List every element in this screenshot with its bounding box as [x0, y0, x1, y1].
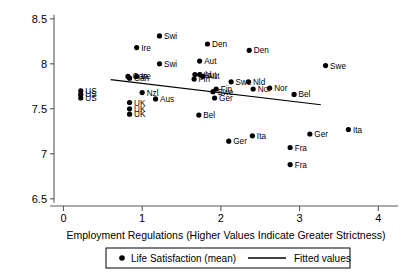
data-point-marker — [127, 76, 132, 81]
x-tick-label: 3 — [297, 212, 303, 224]
legend-label-life-satisfaction: Life Satisfaction (mean) — [131, 253, 236, 264]
data-point-label: UK — [134, 110, 146, 119]
data-point-marker — [226, 139, 231, 144]
data-point-label: Swi — [164, 32, 177, 41]
y-tick-label: 7.5 — [32, 103, 47, 115]
data-point-label: Den — [212, 40, 227, 49]
y-tick-label: 6.5 — [32, 193, 47, 205]
data-point-label: Swe — [330, 62, 346, 71]
data-point-marker — [247, 48, 252, 53]
data-point-marker — [192, 77, 197, 82]
legend-label-fitted-values: Fitted values — [294, 253, 351, 264]
data-point-marker — [346, 127, 351, 132]
data-point-marker — [229, 79, 234, 84]
data-point-marker — [288, 162, 293, 167]
data-point-label: Ger — [314, 130, 328, 139]
data-point-label: Ger — [233, 137, 247, 146]
data-point-marker — [210, 89, 215, 94]
data-point-label: Den — [254, 46, 269, 55]
data-point-marker — [197, 59, 202, 64]
y-tick-label: 8 — [41, 58, 47, 70]
data-point-label: Aut — [207, 72, 220, 81]
data-point-marker — [212, 95, 217, 100]
data-point-marker — [78, 95, 83, 100]
data-point-label: Swi — [164, 60, 177, 69]
y-tick-label: 8.5 — [32, 13, 47, 25]
data-point-marker — [196, 113, 201, 118]
chart-canvas: 6.577.588.501234USUSUSSwiIreSwiCanCanIre… — [0, 0, 404, 276]
data-point-label: Aut — [204, 57, 217, 66]
data-point-label: Ita — [353, 126, 363, 135]
data-point-label: Aus — [160, 95, 174, 104]
data-point-marker — [205, 41, 210, 46]
data-point-marker — [140, 90, 145, 95]
data-point-marker — [200, 74, 205, 79]
data-point-marker — [157, 33, 162, 38]
data-point-marker — [192, 72, 197, 77]
legend-marker-circle — [119, 255, 125, 261]
data-point-marker — [291, 92, 296, 97]
data-point-marker — [127, 106, 132, 111]
data-point-label: Bel — [299, 90, 311, 99]
x-axis-title: Employment Regulations (Higher Values In… — [66, 229, 385, 241]
data-point-marker — [288, 145, 293, 150]
data-point-marker — [307, 131, 312, 136]
data-point-label: Fra — [295, 161, 308, 170]
x-tick-label: 4 — [375, 212, 381, 224]
data-point-label: Ger — [219, 94, 233, 103]
data-point-label: Bel — [203, 111, 215, 120]
data-point-marker — [134, 45, 139, 50]
data-point-label: Nor — [274, 84, 287, 93]
y-tick-label: 7 — [41, 148, 47, 160]
data-point-label: Ire — [141, 44, 151, 53]
data-point-marker — [246, 79, 251, 84]
data-point-marker — [127, 112, 132, 117]
data-point-label: Fra — [295, 144, 308, 153]
x-tick-label: 1 — [139, 212, 145, 224]
data-point-label: US — [85, 94, 97, 103]
data-point-marker — [267, 86, 272, 91]
data-point-label: Ita — [257, 132, 267, 141]
data-point-marker — [134, 74, 139, 79]
data-point-label: Nzl — [147, 89, 159, 98]
data-point-label: Ire — [141, 72, 151, 81]
x-tick-label: 2 — [218, 212, 224, 224]
data-point-marker — [157, 61, 162, 66]
data-point-marker — [250, 133, 255, 138]
data-point-marker — [251, 86, 256, 91]
data-point-marker — [153, 96, 158, 101]
data-point-marker — [323, 63, 328, 68]
scatter-plot-figure: 6.577.588.501234USUSUSSwiIreSwiCanCanIre… — [0, 0, 404, 276]
x-tick-label: 0 — [60, 212, 66, 224]
data-point-marker — [127, 100, 132, 105]
